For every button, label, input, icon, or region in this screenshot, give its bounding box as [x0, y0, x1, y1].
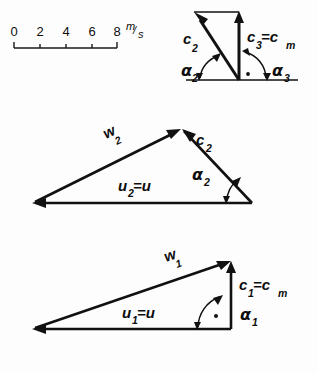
label-c3: c: [247, 28, 256, 45]
alpha2-arc-arrowhead-mid: [232, 177, 241, 187]
scale-tick-label-8: 8: [113, 24, 120, 39]
c2-vector-line: [200, 20, 239, 80]
scale-unit-slash: /: [132, 24, 137, 36]
right-angle-dot-bottom: [214, 314, 218, 318]
label-c2-subscript-top: 2: [191, 42, 198, 54]
label-w1-subscript: 1: [174, 257, 184, 270]
label-alpha3-subscript: 3: [284, 72, 290, 84]
rotor-inlet-triangle: w 1 c 1 =c m u 1 =u α 1: [32, 245, 287, 334]
w2-vector-line: [35, 134, 172, 202]
label-c1: c: [239, 276, 248, 293]
label-u1: u: [122, 304, 131, 321]
label-c1-equals-cm: =c: [253, 276, 271, 293]
label-alpha2-subscript-top: 2: [191, 72, 198, 84]
alpha3-arc-arrowhead: [242, 48, 250, 56]
label-alpha2-subscript-mid: 2: [203, 176, 210, 188]
scale-tick-label-4: 4: [62, 24, 69, 39]
alpha1-arc-arrowhead: [213, 295, 223, 305]
velocity-triangle-figure: 0 2 4 6 8 m / s: [0, 0, 317, 373]
label-alpha2-mid: α: [192, 165, 204, 184]
right-angle-dot-top: [246, 72, 250, 76]
c3-arrowhead: [234, 11, 244, 23]
scale-tick-label-2: 2: [36, 24, 43, 39]
scale-unit-denominator: s: [138, 28, 144, 40]
velocity-scale-bar: 0 2 4 6 8 m / s: [10, 20, 144, 48]
label-alpha1-subscript: 1: [252, 316, 258, 328]
label-cm-subscript-top: m: [286, 39, 295, 51]
scale-tick-label-0: 0: [10, 24, 17, 39]
label-c2-mid: c: [196, 131, 205, 148]
figure-canvas: 0 2 4 6 8 m / s: [0, 0, 317, 373]
exit-outlet-triangle: c 2 c 3 =c m α 2 α 3: [181, 11, 298, 84]
label-w2-subscript: 2: [112, 133, 124, 147]
scale-tick-label-6: 6: [88, 24, 95, 39]
label-c2-subscript-mid: 2: [205, 142, 212, 154]
label-c3-equals-cm: =c: [261, 28, 279, 45]
label-alpha1: α: [240, 305, 252, 324]
label-u2-equals-u: =u: [133, 177, 151, 194]
label-u1-equals-u: =u: [137, 304, 155, 321]
w2-arrowhead: [166, 129, 181, 139]
rotor-exit-triangle: w 2 c 2 u 2 =u α 2: [32, 121, 252, 208]
label-c2-top: c: [183, 30, 192, 47]
label-alpha3: α: [272, 61, 284, 80]
label-cm-subscript-bottom: m: [278, 287, 287, 299]
label-u2: u: [118, 177, 127, 194]
alpha2-arc-arrowhead: [212, 53, 221, 62]
